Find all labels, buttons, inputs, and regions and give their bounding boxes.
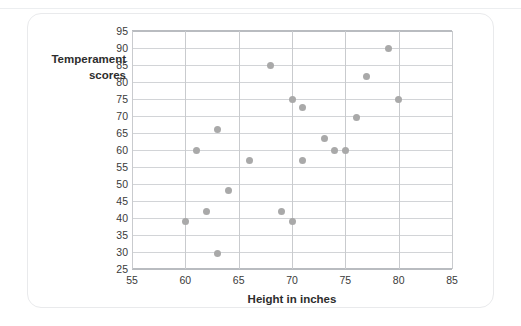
data-point: [289, 96, 296, 103]
x-tick-label: 85: [446, 275, 458, 286]
data-point: [225, 187, 232, 194]
gridline-vertical: [399, 31, 400, 269]
y-tick-label: 60: [94, 145, 128, 156]
y-tick-label: 75: [94, 94, 128, 105]
y-axis-ticks: 253035404550556065707580859095: [90, 31, 128, 269]
x-axis-ticks: 55606570758085: [132, 275, 452, 289]
y-tick-label: 35: [94, 230, 128, 241]
y-tick-label: 70: [94, 111, 128, 122]
y-tick-label: 25: [94, 264, 128, 275]
y-tick-label: 50: [94, 179, 128, 190]
gridline-vertical: [452, 31, 453, 269]
data-point: [342, 147, 349, 154]
data-point: [278, 208, 285, 215]
y-tick-label: 85: [94, 60, 128, 71]
x-tick-label: 55: [126, 275, 138, 286]
data-point: [299, 104, 306, 111]
y-tick-label: 55: [94, 162, 128, 173]
data-point: [182, 218, 189, 225]
page-top-divider: [0, 8, 521, 9]
y-tick-label: 90: [94, 43, 128, 54]
gridline-vertical: [292, 31, 293, 269]
data-point: [363, 73, 370, 80]
data-point: [395, 96, 402, 103]
data-point: [385, 45, 392, 52]
x-tick-label: 80: [393, 275, 405, 286]
data-point: [267, 62, 274, 69]
gridline-vertical: [185, 31, 186, 269]
plot-area: [132, 31, 452, 269]
data-point: [246, 157, 253, 164]
y-tick-label: 80: [94, 77, 128, 88]
x-tick-label: 60: [179, 275, 191, 286]
data-point: [214, 126, 221, 133]
y-tick-label: 45: [94, 196, 128, 207]
gridline-vertical: [132, 31, 133, 269]
data-point: [214, 250, 221, 257]
data-point: [331, 147, 338, 154]
x-tick-label: 70: [286, 275, 298, 286]
x-tick-label: 65: [233, 275, 245, 286]
y-tick-label: 65: [94, 128, 128, 139]
y-tick-label: 95: [94, 26, 128, 37]
data-point: [299, 157, 306, 164]
data-point: [321, 135, 328, 142]
figure-card: Temperament scores 253035404550556065707…: [27, 13, 494, 308]
x-tick-label: 75: [339, 275, 351, 286]
data-point: [353, 114, 360, 121]
x-axis-label: Height in inches: [132, 293, 452, 305]
scatter-plot: Temperament scores 253035404550556065707…: [28, 14, 495, 309]
data-point: [203, 208, 210, 215]
y-tick-label: 30: [94, 247, 128, 258]
gridline-vertical: [239, 31, 240, 269]
y-tick-label: 40: [94, 213, 128, 224]
data-point: [289, 218, 296, 225]
data-point: [193, 147, 200, 154]
